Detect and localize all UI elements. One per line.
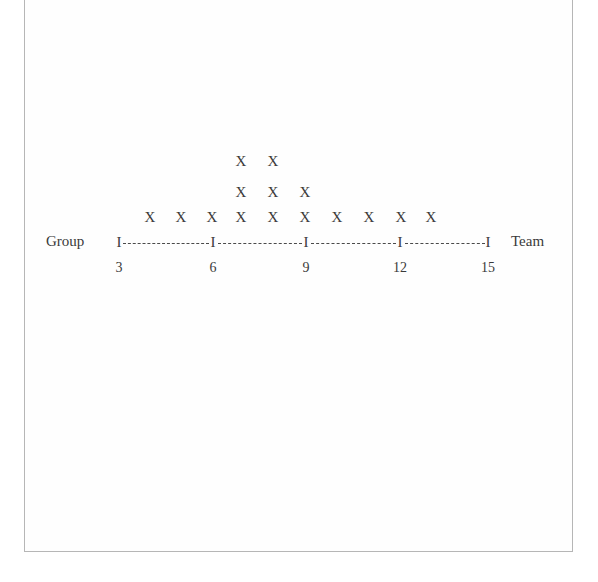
axis-tick-marker: I xyxy=(482,235,494,250)
dotplot-mark: X xyxy=(424,210,438,225)
dotplot-mark: X xyxy=(298,185,312,200)
dotplot-mark: X xyxy=(234,185,248,200)
axis-tick-label: 3 xyxy=(104,261,134,275)
dotplot-mark: X xyxy=(143,210,157,225)
dotplot-mark: X xyxy=(205,210,219,225)
dotplot-mark: X xyxy=(298,210,312,225)
dotplot-mark: X xyxy=(394,210,408,225)
axis-segment xyxy=(123,243,209,245)
dotplot-mark: X xyxy=(362,210,376,225)
axis-tick-marker: I xyxy=(300,235,312,250)
axis-tick-marker: I xyxy=(207,235,219,250)
dotplot-mark: X xyxy=(174,210,188,225)
axis-segment xyxy=(311,243,396,245)
axis-tick-label: 15 xyxy=(473,261,503,275)
dotplot-mark: X xyxy=(266,210,280,225)
axis-tick-marker: I xyxy=(113,235,125,250)
axis-tick-marker: I xyxy=(394,235,406,250)
axis-label-left: Group xyxy=(46,234,84,249)
axis-tick-label: 12 xyxy=(385,261,415,275)
axis-segment xyxy=(405,243,485,245)
dotplot-mark: X xyxy=(266,185,280,200)
dotplot-figure: Group Team X X X X X X X X X X X X X X X… xyxy=(0,0,598,582)
dotplot-mark: X xyxy=(234,210,248,225)
axis-label-right: Team xyxy=(511,234,544,249)
axis-tick-label: 9 xyxy=(291,261,321,275)
dotplot-mark: X xyxy=(266,154,280,169)
axis-segment xyxy=(218,243,302,245)
dotplot-mark: X xyxy=(234,154,248,169)
dotplot-mark: X xyxy=(330,210,344,225)
axis-tick-label: 6 xyxy=(198,261,228,275)
